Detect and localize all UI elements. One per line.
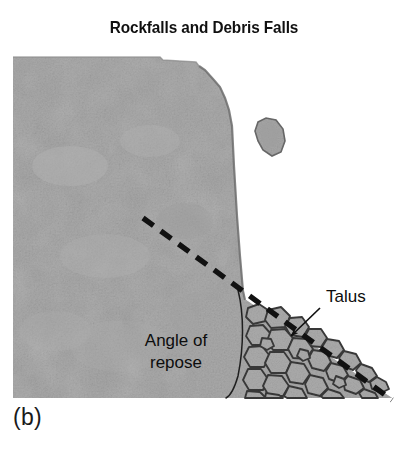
angle-of-repose-label-line2: repose: [150, 353, 202, 372]
figure-root: Rockfalls and Debris Falls: [0, 0, 408, 461]
talus-label: Talus: [326, 287, 366, 306]
panel-caption: (b): [13, 404, 42, 431]
angle-of-repose-label-line1: Angle of: [145, 331, 208, 350]
illustration-canvas: Talus Angle of repose: [0, 46, 408, 406]
figure-title: Rockfalls and Debris Falls: [14, 18, 393, 37]
